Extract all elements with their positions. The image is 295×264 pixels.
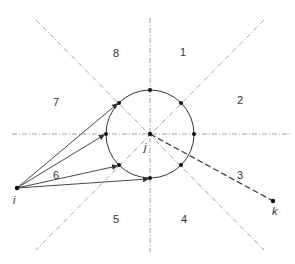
arrow-i-to-180 bbox=[17, 135, 104, 188]
point-j bbox=[148, 132, 152, 136]
region-label-1: 1 bbox=[180, 46, 186, 58]
circle-point-270 bbox=[148, 176, 152, 180]
region-label-3: 3 bbox=[237, 169, 243, 181]
sector-diagram: j i k 1 2 3 4 5 6 7 8 bbox=[0, 0, 295, 264]
region-label-5: 5 bbox=[113, 213, 119, 225]
region-label-6: 6 bbox=[53, 169, 59, 181]
label-i: i bbox=[13, 194, 16, 206]
circle-point-0 bbox=[192, 132, 196, 136]
region-label-4: 4 bbox=[181, 213, 187, 225]
arrows-from-i bbox=[17, 104, 148, 188]
diagram-svg: j i k 1 2 3 4 5 6 7 8 bbox=[0, 0, 295, 264]
circle-point-315 bbox=[179, 163, 183, 167]
region-label-7: 7 bbox=[53, 96, 59, 108]
circle-point-225 bbox=[117, 163, 121, 167]
arrow-i-to-135 bbox=[17, 104, 117, 188]
label-k: k bbox=[272, 205, 278, 217]
line-j-to-k bbox=[150, 134, 273, 201]
circle-point-90 bbox=[148, 88, 152, 92]
region-label-2: 2 bbox=[237, 94, 243, 106]
circle-point-180 bbox=[104, 132, 108, 136]
region-label-8: 8 bbox=[113, 47, 119, 59]
circle-point-45 bbox=[179, 101, 183, 105]
point-i bbox=[15, 186, 19, 190]
circle-point-135 bbox=[117, 101, 121, 105]
point-k bbox=[271, 199, 275, 203]
